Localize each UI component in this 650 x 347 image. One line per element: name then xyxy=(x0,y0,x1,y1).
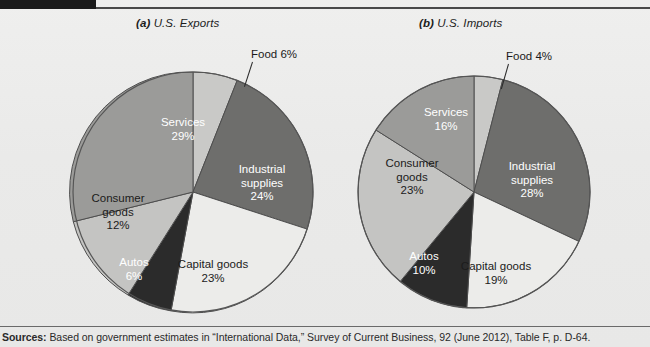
top-corner-bar xyxy=(0,0,96,9)
panel-a-label: (a) xyxy=(136,17,150,29)
pie-chart-imports: Services 16% Consumer goods 23% Autos 10… xyxy=(366,70,588,316)
pie-b-label-autos: Autos 10% xyxy=(394,250,454,277)
pie-a-label-capital-goods: Capital goods 23% xyxy=(165,258,261,285)
source-body: Based on government estimates in “Intern… xyxy=(47,331,591,343)
pie-b-label-capital-goods: Capital goods 19% xyxy=(448,260,544,287)
pie-chart-exports: Services 29% Consumer goods 12% Autos 6%… xyxy=(66,66,326,318)
pie-a-label-services: Services 29% xyxy=(138,116,228,143)
pie-b-callout-food: Food 4% xyxy=(506,50,552,62)
source-note: Sources: Based on government estimates i… xyxy=(2,331,648,343)
pie-b-label-consumer-goods: Consumer goods 23% xyxy=(361,157,463,198)
top-divider-rule xyxy=(96,7,650,9)
panel-b-title-text: U.S. Imports xyxy=(437,17,502,29)
panel-b-label: (b) xyxy=(419,17,434,29)
source-label: Sources: xyxy=(2,331,47,343)
pie-b-label-industrial-supplies: Industrial supplies 28% xyxy=(490,160,574,201)
pie-b-label-services: Services 16% xyxy=(403,106,489,133)
panel-a-title: (a) U.S. Exports xyxy=(136,17,219,29)
pie-a-label-consumer-goods: Consumer goods 12% xyxy=(64,192,172,233)
pie-a-label-autos: Autos 6% xyxy=(103,256,165,283)
pie-a-callout-food: Food 6% xyxy=(251,48,297,60)
panel-b-title: (b) U.S. Imports xyxy=(419,17,502,29)
pie-a-label-industrial-supplies: Industrial supplies 24% xyxy=(220,163,304,204)
figure-container: (a) U.S. Exports Service xyxy=(0,0,650,347)
source-divider-rule xyxy=(0,326,650,327)
panel-a-title-text: U.S. Exports xyxy=(154,17,220,29)
